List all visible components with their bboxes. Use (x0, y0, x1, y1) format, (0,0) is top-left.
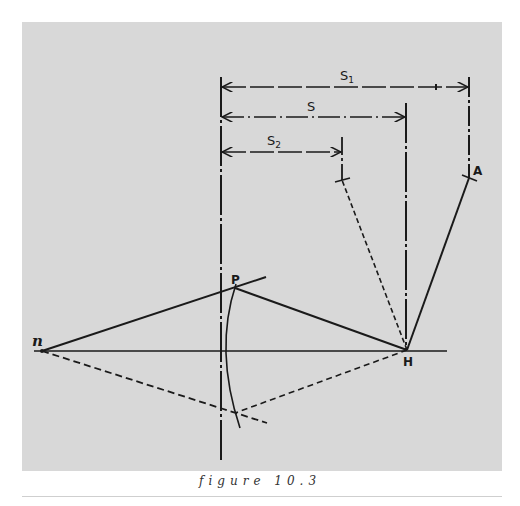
label-h: H (403, 355, 413, 369)
label-n: n (32, 332, 43, 350)
figure-caption: figure 10.3 (0, 474, 520, 488)
dashed-n-to-lower (42, 351, 267, 423)
divider-rule (22, 496, 502, 497)
label-a: A (473, 164, 483, 178)
line-n-to-p (42, 277, 266, 351)
label-p: P (231, 273, 240, 287)
line-p-to-h (235, 288, 407, 350)
arc (226, 284, 240, 428)
label-s2: S2 (267, 133, 281, 150)
dashed-h-to-lower (235, 350, 407, 413)
geometric-construction-diagram: S1 S S2 A P H n (0, 0, 520, 506)
label-s: S (307, 99, 315, 114)
line-h-to-a (407, 178, 469, 350)
dashed-h-to-s2 (342, 180, 407, 350)
label-s1: S1 (340, 68, 354, 85)
